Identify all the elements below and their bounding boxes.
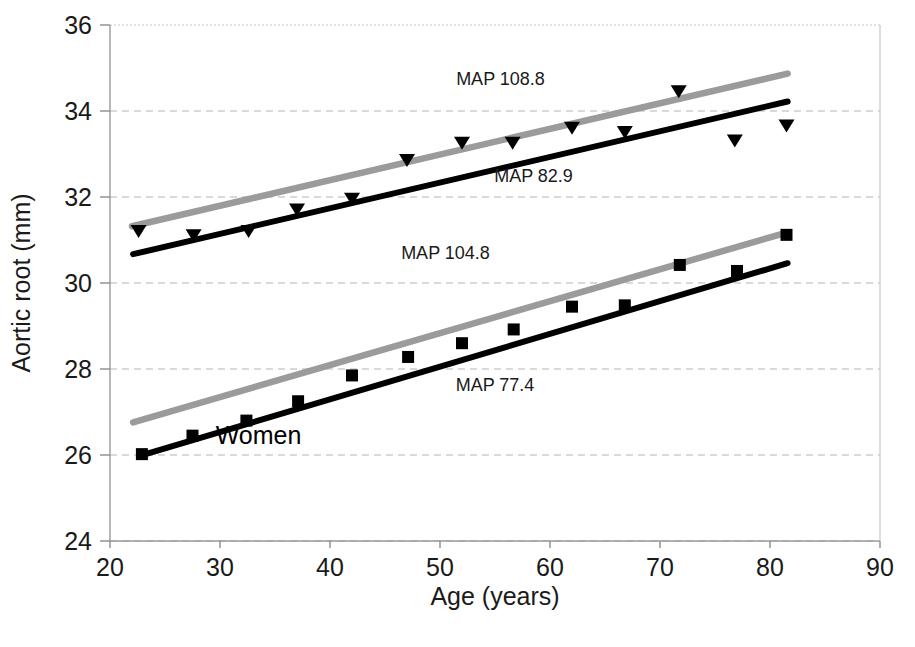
y-tick-label-28: 28 [64, 355, 92, 383]
map-annotation-1: MAP 82.9 [494, 166, 573, 186]
group-label-0: Women [216, 421, 302, 449]
marker-square-3 [292, 395, 304, 407]
figure-page: MAP 108.8MAP 82.9MAP 104.8MAP 77.4 Women… [0, 0, 915, 647]
x-tick-label-30: 30 [206, 553, 234, 581]
y-tick-label-30: 30 [64, 269, 92, 297]
map-annotation-3: MAP 77.4 [456, 375, 535, 395]
marker-square-5 [402, 351, 414, 363]
x-axis-title: Age (years) [430, 582, 559, 610]
marker-square-11 [731, 265, 743, 277]
x-tick-label-20: 20 [96, 553, 124, 581]
marker-square-1 [187, 430, 199, 442]
x-tick-label-50: 50 [426, 553, 454, 581]
aortic-root-vs-age-chart: MAP 108.8MAP 82.9MAP 104.8MAP 77.4 Women… [0, 0, 915, 647]
marker-square-6 [456, 337, 468, 349]
marker-square-0 [136, 448, 148, 460]
y-tick-label-26: 26 [64, 441, 92, 469]
map-annotation-0: MAP 108.8 [456, 69, 545, 89]
marker-square-4 [346, 369, 358, 381]
marker-square-10 [674, 259, 686, 271]
x-tick-label-60: 60 [536, 553, 564, 581]
marker-square-12 [781, 229, 793, 241]
x-tick-label-90: 90 [866, 553, 894, 581]
group-labels-group: Women [216, 421, 302, 449]
y-axis-title: Aortic root (mm) [7, 193, 35, 372]
x-tick-label-40: 40 [316, 553, 344, 581]
marker-square-7 [508, 323, 520, 335]
map-annotation-2: MAP 104.8 [401, 243, 490, 263]
x-tick-label-70: 70 [646, 553, 674, 581]
y-tick-label-36: 36 [64, 11, 92, 39]
y-tick-label-24: 24 [64, 527, 92, 555]
y-tick-label-32: 32 [64, 183, 92, 211]
y-tick-label-34: 34 [64, 97, 92, 125]
x-tick-label-80: 80 [756, 553, 784, 581]
marker-square-8 [566, 301, 578, 313]
chart-background [0, 0, 915, 647]
marker-square-9 [619, 299, 631, 311]
